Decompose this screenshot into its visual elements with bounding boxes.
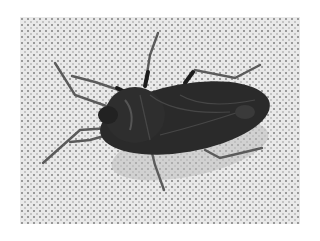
bug-head — [98, 106, 118, 124]
bug-illustration — [20, 17, 300, 224]
bug-photo — [20, 17, 300, 224]
